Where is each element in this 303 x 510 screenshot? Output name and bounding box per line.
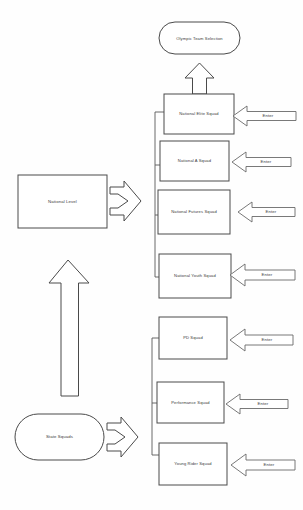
node-pd-squad[interactable]: PD Squad bbox=[159, 317, 227, 359]
arrow-state-to-national-level-icon bbox=[49, 260, 89, 396]
olympic-node-label: Olympic Team Selection bbox=[176, 36, 223, 41]
enter-arrow-pd[interactable]: Enter bbox=[230, 329, 293, 351]
national-futures-squad-label: National Futures Squad bbox=[171, 209, 217, 214]
node-national-level[interactable]: National Level bbox=[18, 175, 107, 228]
node-olympic-team-selection[interactable]: Olympic Team Selection bbox=[159, 22, 240, 54]
enter-arrow-national-a[interactable]: Enter bbox=[232, 152, 291, 172]
enter-arrow-young-rider[interactable]: Enter bbox=[231, 454, 295, 476]
node-national-a-squad[interactable]: National A Squad bbox=[160, 141, 229, 181]
enter-label-pd: Enter bbox=[262, 337, 273, 342]
enter-arrow-performance[interactable]: Enter bbox=[226, 394, 288, 414]
enter-label-national-a: Enter bbox=[261, 159, 272, 164]
node-young-rider-squad[interactable]: Young Rider Squad bbox=[159, 443, 227, 485]
enter-label-young-rider: Enter bbox=[264, 462, 275, 467]
young-rider-squad-label: Young Rider Squad bbox=[174, 461, 212, 466]
national-level-label: National Level bbox=[48, 199, 77, 204]
enter-label-national-elite: Enter bbox=[263, 113, 274, 118]
national-youth-squad-label: National Youth Squad bbox=[174, 273, 216, 278]
national-elite-squad-label: National Elite Squad bbox=[179, 111, 219, 116]
node-national-youth-squad[interactable]: National Youth Squad bbox=[159, 254, 231, 298]
arrow-elite-to-olympic-icon bbox=[185, 63, 214, 94]
enter-label-national-youth: Enter bbox=[262, 272, 273, 277]
enter-arrow-national-youth[interactable]: Enter bbox=[230, 264, 295, 286]
performance-squad-label: Performance Squad bbox=[171, 400, 210, 405]
node-performance-squad[interactable]: Performance Squad bbox=[157, 382, 224, 423]
pd-squad-label: PD Squad bbox=[183, 335, 203, 340]
arrow-state-squads-to-squads-icon bbox=[107, 417, 138, 457]
enter-label-national-futures: Enter bbox=[266, 209, 277, 214]
national-a-squad-label: National A Squad bbox=[178, 158, 212, 163]
arrow-national-level-to-squads-icon bbox=[110, 181, 141, 221]
flowchart-diagram: Olympic Team Selection National Elite Sq… bbox=[0, 0, 303, 510]
node-national-elite-squad[interactable]: National Elite Squad bbox=[164, 94, 234, 134]
enter-arrow-national-futures[interactable]: Enter bbox=[238, 202, 295, 222]
enter-arrow-national-elite[interactable]: Enter bbox=[233, 106, 296, 126]
node-state-squads[interactable]: State Squads bbox=[15, 414, 104, 460]
state-squads-label: State Squads bbox=[46, 434, 73, 439]
flowchart-canvas: Olympic Team Selection National Elite Sq… bbox=[0, 0, 303, 510]
enter-label-performance: Enter bbox=[258, 401, 269, 406]
node-national-futures-squad[interactable]: National Futures Squad bbox=[158, 190, 230, 234]
